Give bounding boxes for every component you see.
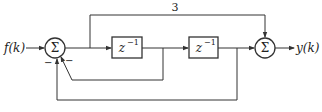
block-diagram: f(k) Σ − − 3 z −1 z −1 Σ y(k)	[0, 0, 322, 112]
delay-1-block: z −1	[112, 37, 142, 58]
delay-1-label: z	[118, 41, 126, 55]
delay-1-exponent: −1	[127, 38, 139, 47]
summer-2-symbol: Σ	[261, 41, 269, 55]
feedforward-gain: 3	[172, 1, 179, 14]
output-label: y(k)	[295, 41, 320, 55]
delay-2-exponent: −1	[204, 38, 216, 47]
summer-2: Σ	[255, 38, 275, 58]
input-label: f(k)	[3, 41, 25, 55]
delay-2-label: z	[195, 41, 203, 55]
summer-1: Σ	[45, 38, 65, 58]
summer-1-sign-left: −	[44, 57, 52, 68]
summer-1-sign-right: −	[65, 55, 73, 66]
delay-2-block: z −1	[189, 37, 218, 58]
summer-1-symbol: Σ	[51, 41, 59, 55]
